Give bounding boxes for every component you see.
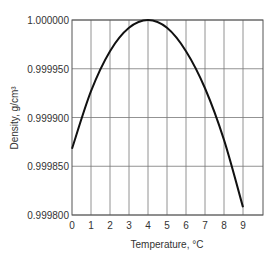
y-axis-label: Density, g/cm³ bbox=[9, 86, 20, 150]
density-temperature-chart: 0.9998000.9998500.9999000.9999501.000000… bbox=[0, 0, 273, 255]
y-tick-label: 0.999850 bbox=[27, 161, 69, 172]
x-tick-label: 2 bbox=[107, 220, 113, 231]
x-tick-label: 1 bbox=[88, 220, 94, 231]
y-tick-labels: 0.9998000.9998500.9999000.9999501.000000 bbox=[27, 15, 69, 221]
x-tick-labels: 0123456789 bbox=[69, 220, 246, 231]
y-tick-label: 0.999800 bbox=[27, 210, 69, 221]
x-tick-label: 4 bbox=[145, 220, 151, 231]
x-tick-label: 3 bbox=[126, 220, 132, 231]
x-tick-label: 8 bbox=[221, 220, 227, 231]
grid bbox=[72, 20, 263, 215]
y-tick-label: 1.000000 bbox=[27, 15, 69, 26]
x-tick-label: 9 bbox=[240, 220, 246, 231]
x-axis-label: Temperature, °C bbox=[131, 239, 204, 250]
x-tick-label: 7 bbox=[202, 220, 208, 231]
x-tick-label: 0 bbox=[69, 220, 75, 231]
y-tick-label: 0.999950 bbox=[27, 64, 69, 75]
y-tick-label: 0.999900 bbox=[27, 113, 69, 124]
x-tick-label: 6 bbox=[183, 220, 189, 231]
density-curve bbox=[72, 20, 243, 207]
x-tick-label: 5 bbox=[164, 220, 170, 231]
